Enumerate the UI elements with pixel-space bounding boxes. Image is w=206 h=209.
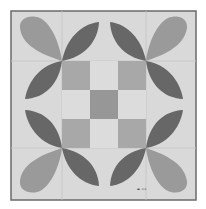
quilt-label: ▬ ▫▫ <box>137 187 147 191</box>
quilt-block <box>0 0 206 209</box>
nine-patch-center <box>62 61 146 148</box>
